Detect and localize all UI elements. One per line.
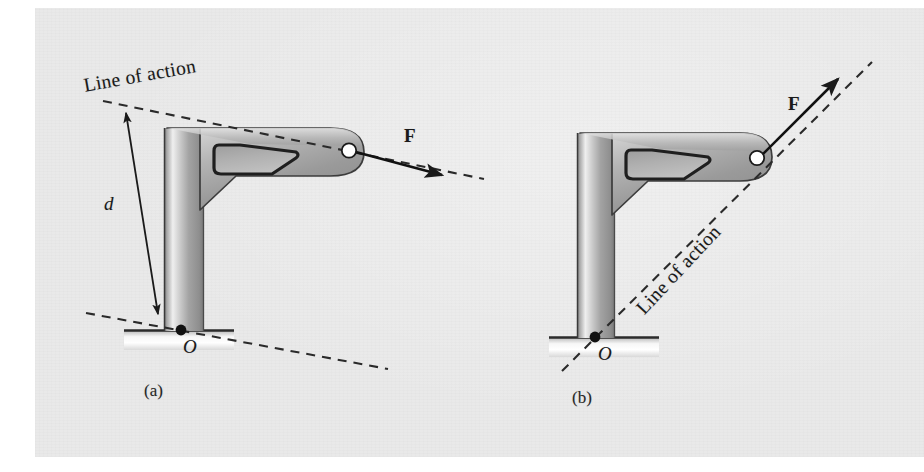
panel-b-force-arrow	[760, 79, 838, 157]
panel-b-pivot-label: O	[598, 343, 612, 365]
panel-b-pin	[750, 151, 764, 165]
panel-b-graphics	[0, 0, 924, 472]
panel-b-caption: (b)	[572, 388, 592, 408]
panel-b-force-label: F	[788, 93, 800, 115]
panel-b-pivot-point	[590, 332, 601, 343]
panel-b-post	[577, 133, 615, 338]
figure-container: Line of action F d O (a)	[0, 0, 924, 472]
